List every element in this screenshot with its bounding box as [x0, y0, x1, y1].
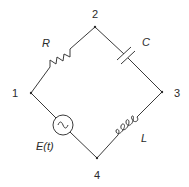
capacitor-branch: [95, 27, 162, 92]
circuit-diagram: 1 2 3 4 R C L E(t): [0, 0, 189, 187]
node-2-dot: [94, 26, 96, 28]
resistor-branch: [31, 27, 95, 93]
node-label-4: 4: [94, 169, 100, 181]
capacitor-label: C: [142, 36, 150, 48]
inductor-branch: [97, 92, 162, 158]
resistor-icon: [50, 49, 70, 67]
resistor-label: R: [42, 37, 50, 49]
node-4-dot: [96, 157, 98, 159]
inductor-label: L: [141, 132, 147, 144]
node-label-3: 3: [174, 87, 180, 99]
node-1-dot: [30, 92, 32, 94]
node-label-2: 2: [92, 8, 98, 20]
inductor-icon: [116, 116, 138, 135]
source-label: E(t): [36, 140, 54, 152]
node-label-1: 1: [12, 87, 18, 99]
node-3-dot: [161, 91, 163, 93]
